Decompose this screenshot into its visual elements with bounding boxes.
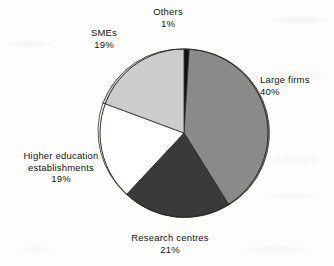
pie-label-research-centres-percent: 21%: [107, 244, 233, 256]
pie-chart-svg: [0, 0, 334, 266]
pie-label-large-firms: Large firms 40%: [260, 74, 334, 97]
pie-label-research-centres-name: Research centres: [107, 232, 233, 244]
pie-label-higher-education-percent: 19%: [2, 173, 120, 185]
pie-label-higher-education-line1: Higher education: [2, 150, 120, 162]
pie-label-others-percent: 1%: [131, 18, 205, 30]
pie-label-others-name: Others: [131, 6, 205, 18]
pie-label-others: Others 1%: [131, 6, 205, 29]
pie-label-smes-percent: 19%: [71, 39, 137, 51]
pie-label-large-firms-name: Large firms: [260, 74, 334, 86]
pie-chart-figure: Others 1% SMEs 19% Large firms 40% Highe…: [0, 0, 334, 266]
pie-label-research-centres: Research centres 21%: [107, 232, 233, 255]
pie-label-higher-education-line2: establishments: [2, 162, 120, 174]
pie-label-large-firms-percent: 40%: [260, 86, 334, 98]
pie-label-higher-education: Higher education establishments 19%: [2, 150, 120, 185]
pie-label-smes-name: SMEs: [71, 27, 137, 39]
pie-label-smes: SMEs 19%: [71, 27, 137, 50]
